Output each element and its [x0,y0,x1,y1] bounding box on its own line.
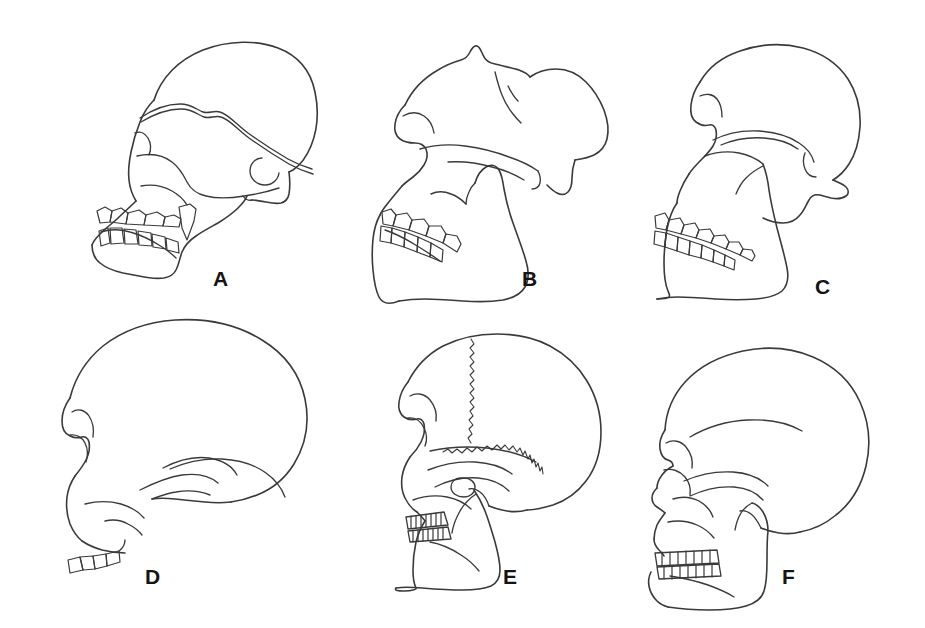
skull-a-upper-canine [179,204,196,240]
skull-f-occipital-base [761,528,800,534]
skull-e-upper-tooth-row [406,512,448,529]
skull-e-mandible-inner-line [430,542,479,571]
skull-a-occipital-base [252,172,290,203]
panel-label-d: D [145,566,161,587]
skull-b-vault-outline [405,46,530,105]
skull-c-zygomatic-arch-upper [713,131,814,162]
skull-panel-e [395,334,601,591]
skull-b-brow-detail [403,113,434,133]
skull-panel-f [649,348,869,610]
skull-f-upper-teeth [655,550,719,566]
skull-e-brow-ridge-detail [410,394,436,421]
skull-b-mandible-corpus [372,215,399,303]
skull-d-occipital-base [152,498,231,503]
skull-e-zygomatic-arch-upper [428,462,512,474]
skull-figure-svg [0,0,925,628]
skull-d-upper-tooth-3 [93,554,107,569]
figure-root: A B C D E F [0,0,925,628]
skull-f-temporal-line [690,420,802,437]
skull-e-nasal-face-front [402,457,417,512]
skull-f-nasal-aperture [652,488,665,513]
skull-b-lower-tooth-1 [380,226,392,243]
skull-a-ear-opening [250,158,279,185]
skull-c-glenoid-fossa [804,153,817,177]
skull-b-zygomatic-arch-upper [420,145,538,171]
skull-c-lower-teeth [654,231,735,270]
skull-d-upper-teeth [68,540,125,573]
skull-c-lower-tooth-7 [724,255,735,270]
skull-c-occipital-outline [763,180,848,223]
skull-c-upper-teeth [655,213,755,261]
skull-b-glenoid-fossa [532,171,540,189]
skull-c-brow-detail [700,94,722,117]
skull-d-alveolar-connection [119,540,125,551]
skull-b-upper-teeth [382,209,461,252]
skull-panel-b [372,46,608,303]
skull-b-occipital-outline [547,160,575,194]
skull-c-vault-outline [700,45,860,180]
skull-f-lower-teeth [657,564,721,579]
skull-b-temporal-fossa [495,72,521,123]
panel-label-e: E [503,566,518,587]
skull-f-maxilla-line [668,521,714,538]
skull-b-upper-tooth-3 [409,219,429,236]
skull-c-zygomatic-arch-lower [721,138,798,149]
skull-f-coronoid-notch [735,503,752,530]
skull-f-zygomatic-body [673,497,713,517]
skull-e-frontal-brow [399,382,425,457]
skull-c-upper-tooth-7 [740,249,755,261]
skull-a-zygomatic-arch [137,155,279,198]
skull-d-orbit-margin [70,435,87,462]
skull-a-upper-teeth [97,204,196,240]
skull-c-lower-tooth-6 [713,250,725,266]
skull-f-orbit-upper-margin [666,441,692,468]
skull-b-zygomatic-arch-lower [448,162,524,180]
skull-b-temporal-fossa-inner [508,86,518,101]
skull-c-lower-tooth-5 [701,245,714,262]
skull-panel-c [654,45,860,300]
skull-c-lower-tooth-4 [689,241,702,258]
skull-d-maxilla-line [85,502,144,518]
skull-d-maxilla-line-2 [105,520,142,535]
skull-e-occipital-outline [489,506,527,512]
skull-a-maxilla-line [141,185,187,205]
skull-b-frontal-face [395,105,427,186]
skull-b-posterior-vault [530,69,608,160]
skull-f-frontal-outline [660,430,673,466]
skull-b-lower-tooth-5 [430,243,443,262]
skull-c-maxilla-line [705,152,763,164]
skull-panel-d [62,320,307,573]
skull-a-upper-tooth-3 [126,210,146,225]
skull-e-ear-opening [451,478,475,497]
skull-d-brow-detail [72,410,93,437]
skull-f-maxilla-front [654,513,665,539]
skull-e-coronal-suture [468,339,474,443]
skull-d-zygomatic-arch-lower [140,474,218,490]
skull-c-lower-tooth-3 [677,237,690,255]
skull-b-muzzle-outline [380,186,402,215]
skull-a-cranium-outline [154,42,317,172]
skull-c-lower-tooth-2 [665,233,678,251]
skull-b-upper-tooth-5 [443,234,461,252]
skull-e-vault-outline [408,334,601,510]
skull-f-vault-outline [665,348,869,532]
skull-b-coronoid-notch [466,183,475,204]
skull-a-upper-tooth-5 [163,215,181,227]
skull-c-mandible-outline [657,164,788,300]
skull-f-orbit-lower-margin [664,469,690,495]
skull-c-muzzle-outline [677,174,689,203]
skull-b-ramus-anterior [431,192,466,204]
skull-e-mandible-outline [396,490,500,590]
panel-label-b: B [522,268,538,289]
skull-panel-a [92,42,317,278]
skull-e-upper-teeth [406,512,448,529]
skull-f-zygomatic-arch-upper [684,472,768,486]
skull-d-nasal-maxilla-front [67,476,82,541]
skull-e-lower-teeth [408,527,451,542]
skull-a-lower-tooth-4 [138,231,152,246]
skull-a-lower-teeth [99,228,179,253]
skull-f-zygomatic-arch-lower [690,487,763,500]
skull-f-mandible-inner-line [670,576,734,597]
skull-a-orbit-curve [135,132,150,155]
skull-c-ramus-anterior [736,166,763,194]
